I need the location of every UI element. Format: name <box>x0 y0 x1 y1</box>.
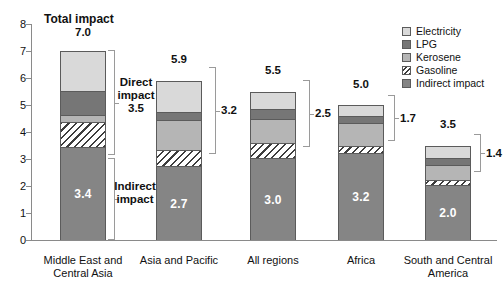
y-tick-label-8: 8 <box>4 19 26 30</box>
y-tick-6 <box>26 78 31 79</box>
legend-label-indirect-impact: Indirect impact <box>416 78 484 89</box>
annotation-total-impact: Total impact <box>44 12 114 26</box>
bracket-tick-1 <box>216 111 220 112</box>
legend-item-gasoline[interactable]: Gasoline <box>402 65 484 76</box>
legend-swatch-lpg-icon <box>402 40 411 49</box>
category-label-4-line2: America <box>388 267 504 280</box>
category-label-4: South and Central America <box>388 254 504 280</box>
annotation-direct-impact-line1: Direct <box>108 76 164 89</box>
annotation-indirect-impact-line2: impact <box>106 193 164 206</box>
bracket-value-4: 1.4 <box>486 147 502 159</box>
segment-electricity <box>338 105 384 117</box>
annotation-indirect-impact-line1: Indirect <box>106 180 164 193</box>
legend: Electricity LPG Kerosene Gasoline Indire… <box>402 26 484 89</box>
y-tick-5 <box>26 105 31 106</box>
segment-kerosene <box>156 121 202 151</box>
segment-lpg <box>60 92 106 116</box>
legend-swatch-indirect-impact-icon <box>402 79 411 88</box>
x-axis-line <box>31 240 497 241</box>
bracket-tick-2 <box>310 114 314 115</box>
segment-kerosene <box>425 166 471 181</box>
y-tick-label-4: 4 <box>4 127 26 138</box>
bracket-direct-impact-1 <box>209 67 216 154</box>
segment-electricity <box>250 92 296 111</box>
legend-item-electricity[interactable]: Electricity <box>402 26 484 37</box>
stacked-bar-chart: 8 7 6 5 4 3 2 1 0 7.0 3.4 Middle East an… <box>0 0 504 296</box>
segment-electricity <box>425 146 471 160</box>
segment-indirect-impact: 3.0 <box>250 159 296 240</box>
segment-lpg <box>338 117 384 124</box>
y-tick-0 <box>26 240 31 241</box>
bar-all-regions[interactable]: 3.0 <box>250 92 296 241</box>
bar-total-label-0: 7.0 <box>52 26 114 38</box>
bracket-value-3: 1.7 <box>400 112 416 124</box>
segment-gasoline <box>60 123 106 149</box>
segment-gasoline <box>250 144 296 159</box>
y-tick-4 <box>26 132 31 133</box>
y-tick-1 <box>26 213 31 214</box>
annotation-indirect-impact: Indirect impact <box>106 180 164 206</box>
annotation-direct-impact: Direct impact 3.5 <box>108 76 164 115</box>
legend-swatch-electricity-icon <box>402 27 411 36</box>
legend-item-kerosene[interactable]: Kerosene <box>402 52 484 63</box>
y-tick-label-7: 7 <box>4 46 26 57</box>
legend-item-lpg[interactable]: LPG <box>402 39 484 50</box>
legend-label-kerosene: Kerosene <box>416 52 461 63</box>
segment-kerosene <box>338 124 384 147</box>
bar-total-label-2: 5.5 <box>242 64 304 76</box>
y-tick-label-6: 6 <box>4 73 26 84</box>
bracket-value-2: 2.5 <box>315 107 331 119</box>
y-tick-label-2: 2 <box>4 181 26 192</box>
y-tick-label-5: 5 <box>4 100 26 111</box>
segment-gasoline <box>425 181 471 186</box>
bracket-direct-impact-3 <box>388 95 395 141</box>
y-tick-3 <box>26 159 31 160</box>
segment-indirect-impact: 3.2 <box>338 154 384 240</box>
bar-total-label-3: 5.0 <box>330 78 392 90</box>
segment-lpg <box>250 110 296 119</box>
y-tick-2 <box>26 186 31 187</box>
y-tick-label-1: 1 <box>4 208 26 219</box>
bar-total-label-1: 5.9 <box>148 53 210 65</box>
bracket-value-1: 3.2 <box>221 104 237 116</box>
bar-indirect-value-0: 3.4 <box>61 187 105 201</box>
bracket-direct-impact-4 <box>474 134 481 172</box>
segment-gasoline <box>156 151 202 167</box>
bar-middle-east-and-central-asia[interactable]: 3.4 <box>60 51 106 240</box>
segment-kerosene <box>60 116 106 123</box>
category-label-0-line2: Central Asia <box>23 267 143 280</box>
y-tick-label-0: 0 <box>4 235 26 246</box>
bracket-tick-4 <box>481 153 485 154</box>
legend-swatch-gasoline-icon <box>402 66 411 75</box>
legend-label-gasoline: Gasoline <box>416 65 457 76</box>
bar-indirect-value-3: 3.2 <box>339 190 383 204</box>
y-axis-line <box>31 24 32 240</box>
segment-indirect-impact: 3.4 <box>60 148 106 240</box>
segment-lpg <box>425 159 471 166</box>
bar-africa[interactable]: 3.2 <box>338 105 384 240</box>
segment-kerosene <box>250 120 296 144</box>
y-tick-label-3: 3 <box>4 154 26 165</box>
bar-indirect-value-4: 2.0 <box>426 206 470 220</box>
legend-label-lpg: LPG <box>416 39 437 50</box>
category-label-4-line1: South and Central <box>388 254 504 267</box>
bar-total-label-4: 3.5 <box>417 118 479 130</box>
y-tick-7 <box>26 51 31 52</box>
annotation-direct-impact-value: 3.5 <box>108 102 164 115</box>
legend-label-electricity: Electricity <box>416 26 461 37</box>
segment-indirect-impact: 2.0 <box>425 186 471 240</box>
bracket-tick-3 <box>395 118 399 119</box>
segment-gasoline <box>338 147 384 154</box>
bar-south-and-central-america[interactable]: 2.0 <box>425 146 471 241</box>
legend-swatch-kerosene-icon <box>402 53 411 62</box>
bracket-direct-impact-2 <box>303 80 310 147</box>
bar-indirect-value-2: 3.0 <box>251 193 295 207</box>
legend-item-indirect-impact[interactable]: Indirect impact <box>402 78 484 89</box>
segment-electricity <box>60 51 106 92</box>
annotation-direct-impact-line2: impact <box>108 89 164 102</box>
y-tick-8 <box>26 24 31 25</box>
